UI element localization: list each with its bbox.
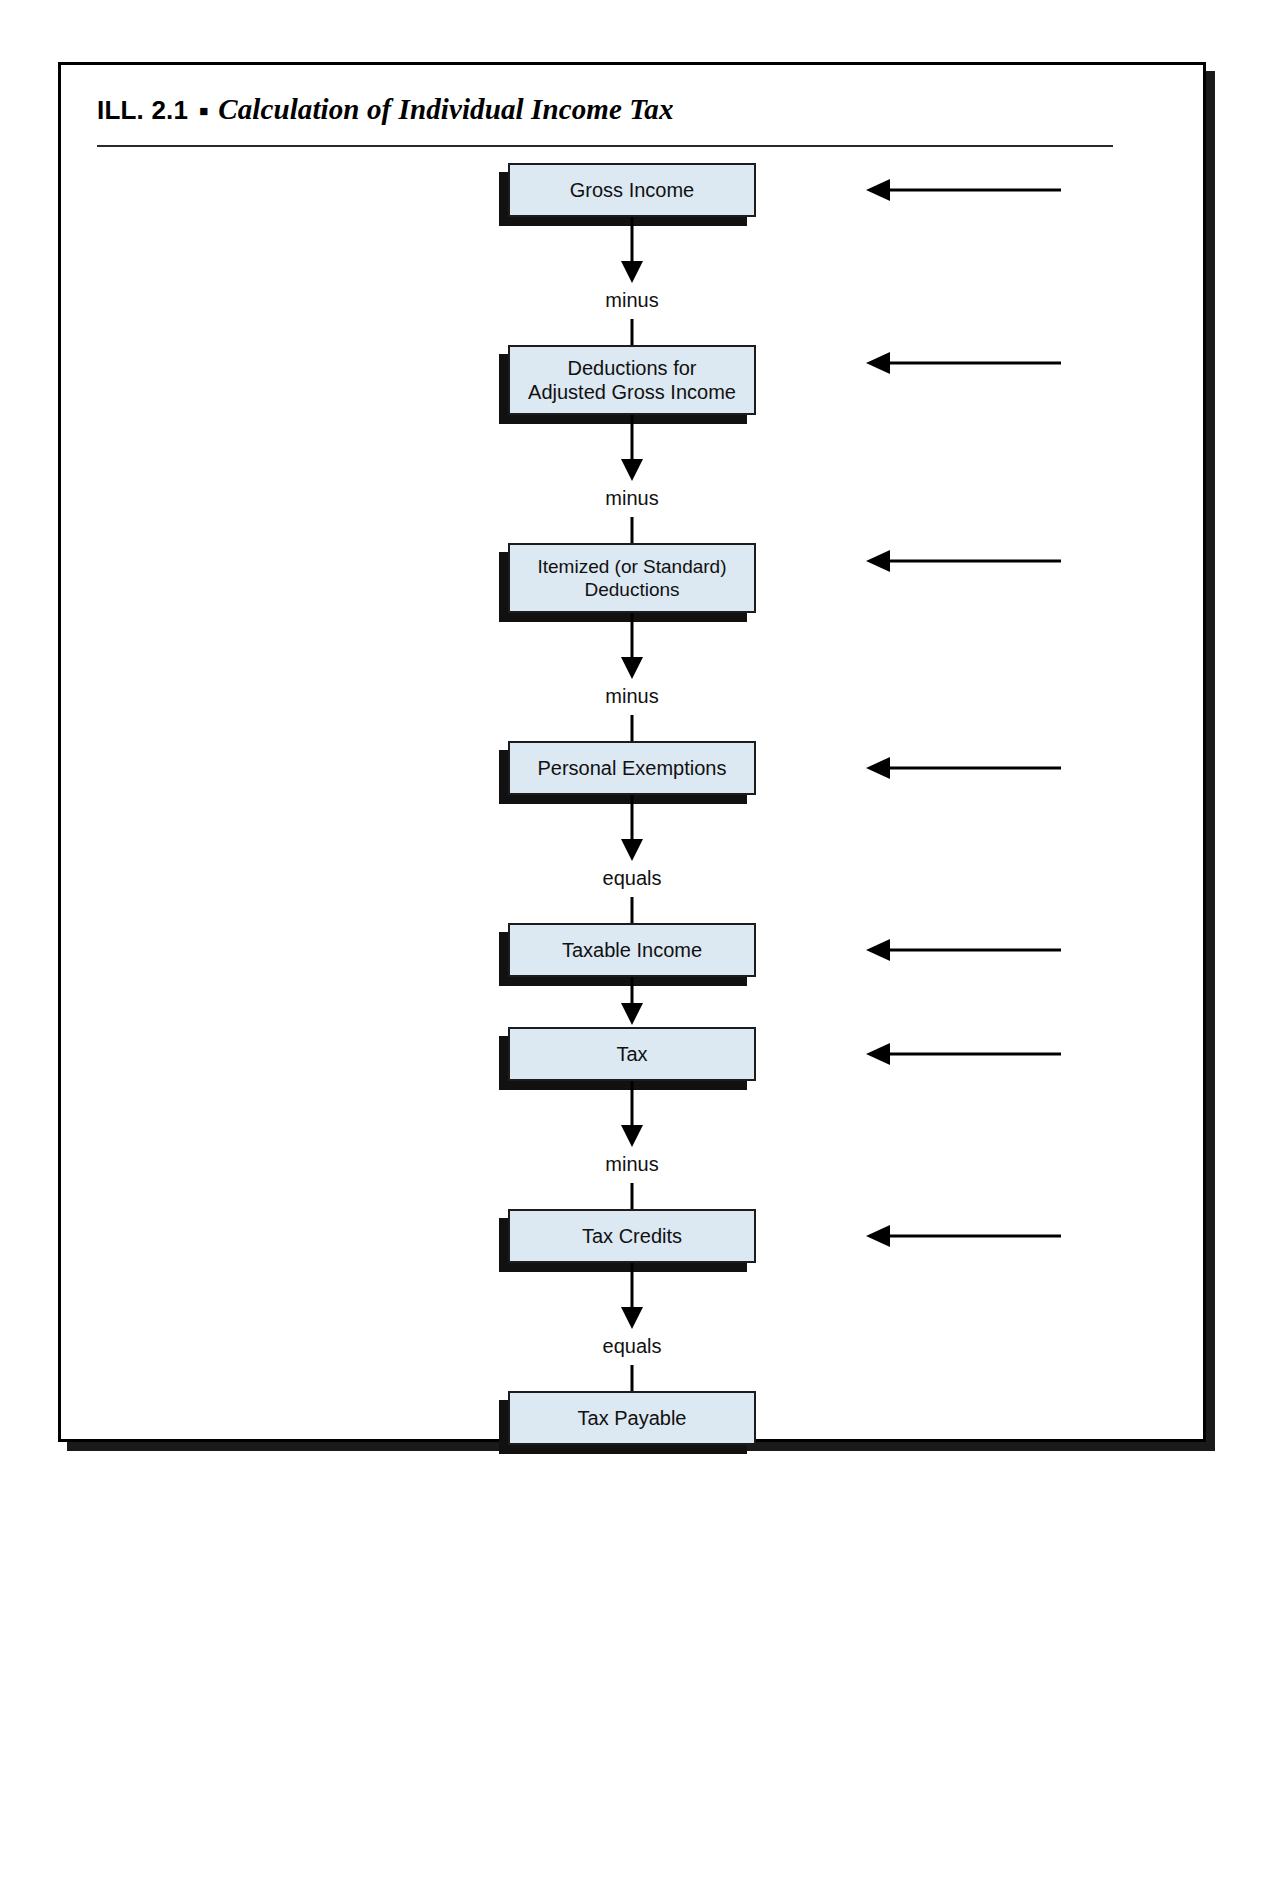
illustration-number: ILL. 2.1	[97, 95, 188, 126]
connector-4: equals	[508, 795, 756, 923]
arrow-left-icon-4	[866, 757, 890, 779]
page-title: Calculation of Individual Income Tax	[218, 93, 673, 126]
connector-5	[508, 977, 756, 1027]
node-box-tax[interactable]: Tax	[508, 1027, 756, 1081]
flow-unit-8: Tax Payable	[61, 1391, 1203, 1445]
node-label-4: Personal Exemptions	[534, 756, 731, 780]
node-label-8: Tax Payable	[574, 1406, 691, 1430]
title-divider	[97, 145, 1113, 147]
title-row: ILL. 2.1 ■ Calculation of Individual Inc…	[97, 93, 1113, 126]
arrow-left-icon-6	[866, 1043, 890, 1065]
node-wrap-7: Step 7 Tax Credits	[508, 1209, 756, 1263]
arrow-down-icon-2	[621, 459, 643, 481]
connector-line-4b	[631, 897, 634, 923]
connector-line-4a	[631, 795, 634, 843]
flow-unit-4: Step 4 Personal Exemptions equals	[61, 741, 1203, 923]
arrow-left-icon-3	[866, 550, 890, 572]
arrow-left-icon-7	[866, 1225, 890, 1247]
node-box-tax-credits[interactable]: Tax Credits	[508, 1209, 756, 1263]
arrow-left-icon-2	[866, 352, 890, 374]
arrow-left-icon-5	[866, 939, 890, 961]
connector-label-6: minus	[599, 1153, 664, 1176]
flow-unit-7: Step 7 Tax Credits equals	[61, 1209, 1203, 1391]
node-label-6: Tax	[612, 1042, 651, 1066]
connector-line-3a	[631, 613, 634, 661]
connector-line-7b	[631, 1365, 634, 1391]
connector-1: minus	[508, 217, 756, 345]
node-wrap-2: Step 2 Deductions for Adjusted Gross Inc…	[508, 345, 756, 415]
node-box-deductions-agi[interactable]: Deductions for Adjusted Gross Income	[508, 345, 756, 415]
flowchart: Step 1 Gross Income minus Step 2	[61, 163, 1203, 1445]
step-arrow-line-5	[886, 949, 1061, 952]
node-label-5: Taxable Income	[558, 938, 706, 962]
arrow-down-icon-1	[621, 261, 643, 283]
node-box-gross-income[interactable]: Gross Income	[508, 163, 756, 217]
node-label-7: Tax Credits	[578, 1224, 686, 1248]
connector-2: minus	[508, 415, 756, 543]
arrow-down-icon-7	[621, 1307, 643, 1329]
connector-label-1: minus	[599, 289, 664, 312]
step-arrow-line-2	[886, 362, 1061, 365]
square-bullet-icon: ■	[199, 102, 208, 119]
flow-unit-2: Step 2 Deductions for Adjusted Gross Inc…	[61, 345, 1203, 543]
arrow-down-icon-5	[621, 1003, 643, 1025]
connector-3: minus	[508, 613, 756, 741]
connector-line-1a	[631, 217, 634, 265]
flow-unit-6: Step 6 Tax minus	[61, 1027, 1203, 1209]
node-box-personal-exemptions[interactable]: Personal Exemptions	[508, 741, 756, 795]
connector-line-1b	[631, 319, 634, 345]
node-wrap-8: Tax Payable	[508, 1391, 756, 1445]
node-box-itemized-deductions[interactable]: Itemized (or Standard) Deductions	[508, 543, 756, 613]
arrow-down-icon-4	[621, 839, 643, 861]
connector-7: equals	[508, 1263, 756, 1391]
connector-label-7: equals	[597, 1335, 668, 1358]
connector-line-7a	[631, 1263, 634, 1311]
connector-line-3b	[631, 715, 634, 741]
step-arrow-line-6	[886, 1053, 1061, 1056]
connector-label-4: equals	[597, 867, 668, 890]
arrow-down-icon-3	[621, 657, 643, 679]
arrow-left-icon-1	[866, 179, 890, 201]
step-arrow-line-7	[886, 1235, 1061, 1238]
connector-line-6b	[631, 1183, 634, 1209]
node-wrap-6: Step 6 Tax	[508, 1027, 756, 1081]
node-wrap-3: Step 3 Itemized (or Standard) Deductions	[508, 543, 756, 613]
connector-label-3: minus	[599, 685, 664, 708]
node-box-taxable-income[interactable]: Taxable Income	[508, 923, 756, 977]
step-arrow-line-4	[886, 767, 1061, 770]
node-label-2-line2: Adjusted Gross Income	[528, 381, 736, 403]
node-wrap-1: Step 1 Gross Income	[508, 163, 756, 217]
node-label-2: Deductions for Adjusted Gross Income	[524, 356, 740, 405]
connector-label-2: minus	[599, 487, 664, 510]
connector-line-6a	[631, 1081, 634, 1129]
arrow-down-icon-6	[621, 1125, 643, 1147]
figure-title-block: ILL. 2.1 ■ Calculation of Individual Inc…	[97, 93, 1113, 126]
node-wrap-4: Step 4 Personal Exemptions	[508, 741, 756, 795]
node-label-3-line2: Deductions	[584, 579, 679, 600]
figure-frame: ILL. 2.1 ■ Calculation of Individual Inc…	[58, 62, 1206, 1442]
node-label-3-line1: Itemized (or Standard)	[537, 556, 726, 577]
node-label-3: Itemized (or Standard) Deductions	[533, 555, 730, 601]
connector-line-2a	[631, 415, 634, 463]
node-label-2-line1: Deductions for	[568, 357, 697, 379]
connector-line-2b	[631, 517, 634, 543]
step-arrow-line-3	[886, 560, 1061, 563]
node-box-tax-payable[interactable]: Tax Payable	[508, 1391, 756, 1445]
flow-unit-5: Step 5 Taxable Income	[61, 923, 1203, 1027]
node-label-1: Gross Income	[566, 178, 698, 202]
flow-unit-1: Step 1 Gross Income minus	[61, 163, 1203, 345]
flow-unit-3: Step 3 Itemized (or Standard) Deductions…	[61, 543, 1203, 741]
connector-6: minus	[508, 1081, 756, 1209]
step-arrow-line-1	[886, 189, 1061, 192]
node-wrap-5: Step 5 Taxable Income	[508, 923, 756, 977]
